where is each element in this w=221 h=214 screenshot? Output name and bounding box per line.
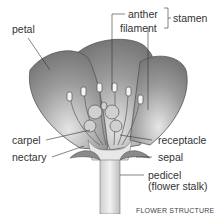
label-carpel: carpel <box>12 135 41 146</box>
label-sepal: sepal <box>158 152 183 163</box>
label-receptacle: receptacle <box>158 135 206 146</box>
label-filament: filament <box>120 23 157 34</box>
label-stamen: stamen <box>173 13 207 24</box>
label-petal: petal <box>12 24 35 35</box>
flower-structure-diagram: petal anther filament stamen carpel nect… <box>0 0 221 214</box>
diagram-title: FLOWER STRUCTURE <box>136 205 214 214</box>
label-nectary: nectary <box>12 152 46 163</box>
label-anther: anther <box>128 9 158 20</box>
label-pedicel-note: (flower stalk) <box>148 181 208 192</box>
